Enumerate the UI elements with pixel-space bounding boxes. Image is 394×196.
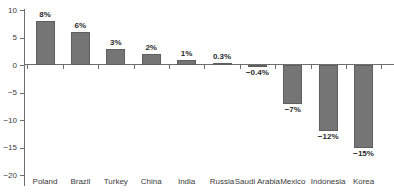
- category-label-poland: Poland: [33, 178, 58, 186]
- y-axis-tick-label: −15: [3, 144, 17, 152]
- y-axis-tick-label: 5: [13, 34, 17, 42]
- bar-group[interactable]: 0.3%: [213, 0, 232, 196]
- bar-value-label: −15%: [353, 150, 374, 158]
- bar-group[interactable]: 8%: [36, 0, 55, 196]
- bar[interactable]: [213, 63, 232, 65]
- y-axis-tick-label: −5: [8, 89, 17, 97]
- category-label-brazil: Brazil: [70, 178, 90, 186]
- bar-value-label: −7%: [285, 106, 301, 114]
- category-label-russia: Russia: [210, 178, 234, 186]
- category-label-turkey: Turkey: [104, 178, 128, 186]
- bar-value-label: 2%: [145, 44, 157, 52]
- bar-group[interactable]: −12%: [319, 0, 338, 196]
- bar-value-label: 1%: [181, 50, 193, 58]
- bar-value-label: 0.3%: [213, 53, 231, 61]
- y-axis-tick-label: 0: [13, 62, 17, 70]
- bar[interactable]: [142, 54, 161, 65]
- bar-value-label: −12%: [318, 133, 339, 141]
- bar[interactable]: [177, 60, 196, 66]
- bar[interactable]: [319, 65, 338, 131]
- bar-value-label: −0.4%: [246, 69, 269, 77]
- bar-group[interactable]: 6%: [71, 0, 90, 196]
- category-label-china: China: [141, 178, 162, 186]
- bar-group[interactable]: −0.4%: [248, 0, 267, 196]
- category-label-mexico: Mexico: [280, 178, 305, 186]
- category-label-indonesia: Indonesia: [311, 178, 346, 186]
- y-axis-tick-label: −20: [3, 172, 17, 180]
- y-axis-tick-label: −10: [3, 117, 17, 125]
- bar[interactable]: [283, 65, 302, 104]
- category-label-india: India: [178, 178, 195, 186]
- bar-group[interactable]: −7%: [283, 0, 302, 196]
- bar-group[interactable]: 1%: [177, 0, 196, 196]
- bar[interactable]: [36, 21, 55, 65]
- bar-group[interactable]: 2%: [142, 0, 161, 196]
- bar-group[interactable]: 3%: [106, 0, 125, 196]
- bar-value-label: 6%: [75, 22, 87, 30]
- y-axis-tick-label: 10: [8, 7, 17, 15]
- bar-value-label: 8%: [39, 11, 51, 19]
- category-label-korea: Korea: [353, 178, 374, 186]
- bar[interactable]: [71, 32, 90, 65]
- bar-value-label: 3%: [110, 39, 122, 47]
- bars-layer: 8%6%3%2%1%0.3%−0.4%−7%−12%−15%: [24, 0, 394, 196]
- category-label-saudi-arabia: Saudi Arabia: [235, 178, 280, 186]
- bar[interactable]: [248, 65, 267, 67]
- bar[interactable]: [106, 49, 125, 66]
- bar-group[interactable]: −15%: [354, 0, 373, 196]
- bar[interactable]: [354, 65, 373, 148]
- bar-chart: 1050−5−10−15−20 8%6%3%2%1%0.3%−0.4%−7%−1…: [0, 0, 394, 196]
- plot-area: 1050−5−10−15−20 8%6%3%2%1%0.3%−0.4%−7%−1…: [24, 0, 394, 196]
